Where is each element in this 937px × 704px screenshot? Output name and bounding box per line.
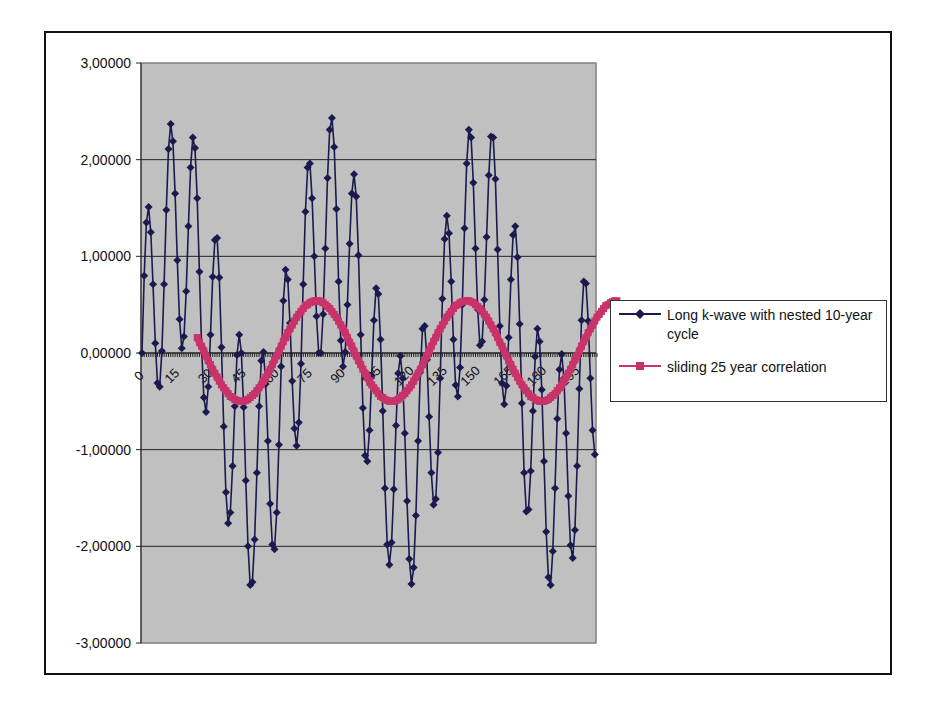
y-axis: 3,000002,000001,000000,00000-1,00000-2,0…	[76, 55, 141, 651]
square-icon	[617, 358, 663, 374]
y-tick-label: 0,00000	[80, 345, 131, 361]
legend-label: Long k-wave with nested 10-year cycle	[667, 306, 882, 344]
diamond-icon	[617, 306, 663, 322]
y-tick-label: 2,00000	[80, 152, 131, 168]
legend-item-long-k-wave: Long k-wave with nested 10-year cycle	[617, 306, 882, 344]
legend: Long k-wave with nested 10-year cycle sl…	[610, 300, 887, 402]
y-tick-label: -3,00000	[76, 635, 131, 651]
y-tick-label: 3,00000	[80, 55, 131, 71]
y-tick-label: -2,00000	[76, 538, 131, 554]
legend-label: sliding 25 year correlation	[667, 358, 882, 377]
legend-item-sliding-correlation: sliding 25 year correlation	[617, 358, 882, 377]
y-tick-label: -1,00000	[76, 442, 131, 458]
y-tick-label: 1,00000	[80, 248, 131, 264]
